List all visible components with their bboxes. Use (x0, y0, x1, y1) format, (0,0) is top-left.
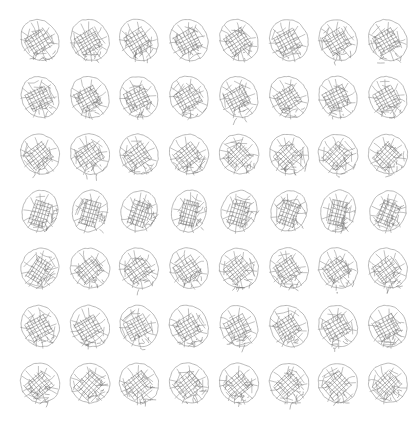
glyph-vein (280, 138, 291, 149)
glyph-body (160, 355, 216, 412)
glyph-scribble (393, 164, 396, 167)
glyph-vein (83, 308, 94, 321)
glyph-vein (95, 373, 106, 384)
glyph-vein (279, 23, 286, 35)
sample-glyph (362, 242, 414, 294)
glyph-scribble (95, 111, 99, 115)
glyph-scribble (91, 286, 93, 288)
sample-glyph (14, 242, 66, 294)
glyph-vein (175, 140, 184, 151)
glyph-vein (79, 80, 87, 93)
glyph-vein (139, 219, 150, 231)
glyph-body (110, 240, 167, 298)
glyph-scribble (179, 265, 190, 281)
glyph-scribble (27, 38, 38, 55)
glyph-outline (310, 126, 366, 182)
glyph-scribble (196, 339, 197, 340)
glyph-vein (128, 198, 138, 207)
glyph-body (61, 355, 118, 412)
glyph-scribble (91, 281, 94, 284)
glyph-vein (143, 160, 152, 172)
glyph-scribble (223, 255, 240, 269)
glyph-scribble (89, 335, 90, 336)
glyph-scribble (337, 345, 338, 346)
glyph-outline (361, 240, 416, 296)
glyph-vein (169, 266, 181, 277)
glyph-vein (141, 142, 151, 150)
glyph-vein (177, 81, 184, 92)
glyph-outline (312, 70, 364, 125)
glyph-body (62, 298, 118, 355)
glyph-vein (92, 28, 103, 37)
glyph-scribble (301, 387, 303, 390)
glyph-vein (387, 278, 397, 289)
glyph-vein (46, 257, 58, 267)
glyph-scribble (101, 340, 103, 342)
glyph-scribble (99, 230, 104, 233)
glyph-vein (72, 317, 84, 330)
glyph-outline (17, 186, 63, 236)
glyph-scribble (348, 51, 353, 57)
glyph-scribble (223, 85, 243, 96)
glyph-scribble (243, 108, 248, 111)
glyph-scribble (343, 340, 347, 345)
glyph-outline (112, 240, 167, 296)
glyph-scribble (285, 203, 300, 209)
glyph-vein (291, 333, 304, 343)
glyph-scribble (298, 50, 301, 55)
glyph-body (261, 298, 316, 355)
glyph-outline (13, 126, 68, 182)
glyph-scribble (335, 88, 344, 106)
glyph-scribble (45, 398, 47, 400)
sample-glyph (163, 300, 215, 352)
glyph-body (211, 12, 266, 68)
glyph-vein (229, 49, 240, 60)
glyph-scribble (94, 174, 100, 180)
glyph-body (111, 12, 167, 71)
glyph-outline (161, 355, 216, 411)
sample-glyph (213, 71, 265, 123)
glyph-scribble (79, 109, 86, 115)
glyph-scribble (135, 338, 136, 339)
sample-glyph (64, 71, 116, 123)
glyph-vein (347, 152, 357, 162)
glyph-vein (70, 91, 83, 103)
glyph-scribble (139, 342, 144, 346)
glyph-scribble (302, 108, 305, 110)
glyph-scribble (186, 167, 189, 170)
glyph-scribble (43, 314, 53, 332)
glyph-vein (142, 195, 147, 207)
glyph-scribble (91, 170, 92, 171)
glyph-vein (244, 160, 253, 170)
glyph-scribble (375, 220, 391, 227)
sample-glyph (213, 128, 265, 180)
sample-glyph (163, 242, 215, 294)
glyph-scribble (326, 36, 345, 48)
glyph-scribble (277, 221, 293, 227)
glyph-scribble (243, 51, 245, 53)
glyph-scribble (322, 95, 331, 112)
glyph-vein (77, 216, 86, 228)
glyph-vein (69, 381, 77, 389)
glyph-vein (276, 258, 282, 263)
glyph-scribble (224, 87, 244, 98)
glyph-body (112, 70, 165, 125)
glyph-scribble (33, 100, 52, 110)
glyph-scribble (186, 402, 188, 405)
sample-glyph (163, 14, 215, 66)
glyph-vein (325, 204, 331, 221)
glyph-outline (112, 127, 166, 182)
sample-glyph (163, 71, 215, 123)
glyph-scribble (347, 207, 349, 212)
glyph-scribble (288, 402, 295, 409)
glyph-body (62, 240, 118, 296)
glyph-body (360, 126, 416, 182)
glyph-scribble (196, 114, 199, 116)
glyph-body (261, 241, 318, 300)
glyph-vein (343, 96, 355, 107)
glyph-scribble (192, 84, 203, 102)
glyph-scribble (45, 392, 49, 396)
glyph-scribble (341, 315, 350, 330)
glyph-scribble (29, 149, 48, 164)
glyph-scribble (354, 211, 355, 212)
